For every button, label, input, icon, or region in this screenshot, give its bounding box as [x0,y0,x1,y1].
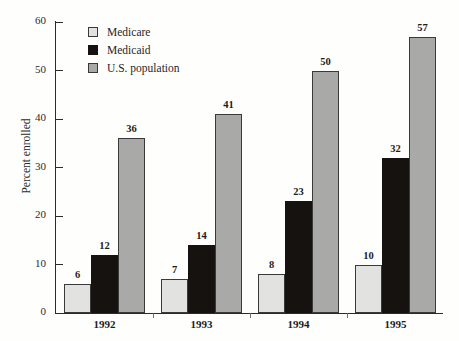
bar-chart: Percent enrolled 0102030405060 Medicare … [0,0,459,341]
legend-label-population: U.S. population [107,62,180,74]
legend-label-medicaid: Medicaid [107,44,150,56]
bar-value-label: 32 [390,143,401,154]
bar-value-label: 12 [99,240,110,251]
y-axis-title-holder: Percent enrolled [16,0,30,300]
bar [409,37,436,313]
x-axis-category-label: 1995 [343,318,448,330]
bar-value-label: 14 [196,230,207,241]
y-axis-tick-label: 60 [20,14,46,26]
bar-value-label: 8 [269,259,274,270]
y-axis-tick [56,313,63,314]
y-axis-tick-label: 20 [20,208,46,220]
bar [118,138,145,313]
y-axis-tick [56,264,63,265]
bar [215,114,242,313]
y-axis-tick [56,216,63,217]
legend-swatch-medicare [88,27,98,37]
bar-value-label: 7 [172,264,177,275]
bar [258,274,285,313]
legend: Medicare Medicaid U.S. population [88,24,180,78]
legend-label-medicare: Medicare [107,26,150,38]
y-axis-tick-label: 40 [20,111,46,123]
x-axis-category-label: 1992 [52,318,157,330]
bar-value-label: 50 [320,56,331,67]
x-axis-category-label: 1994 [246,318,351,330]
legend-item-medicaid: Medicaid [88,42,180,58]
bar [382,158,409,313]
legend-item-population: U.S. population [88,60,180,76]
legend-swatch-medicaid [88,45,98,55]
bar-value-label: 57 [417,22,428,33]
bar [91,255,118,313]
legend-item-medicare: Medicare [88,24,180,40]
x-axis-category-label: 1993 [149,318,254,330]
bar-value-label: 10 [363,250,374,261]
bar [188,245,215,313]
bar-value-label: 23 [293,186,304,197]
bar-value-label: 36 [126,123,137,134]
bar-value-label: 6 [75,269,80,280]
bar [285,201,312,313]
bar-value-label: 41 [223,99,234,110]
bar [161,279,188,313]
y-axis-tick-label: 50 [20,63,46,75]
legend-swatch-population [88,63,98,73]
y-axis-tick [56,167,63,168]
bar [312,71,339,314]
y-axis-tick [56,22,63,23]
y-axis-tick-label: 10 [20,257,46,269]
y-axis-tick-label: 30 [20,160,46,172]
y-axis-tick [56,70,63,71]
bar [355,265,382,314]
bar [64,284,91,313]
y-axis-tick-label: 0 [20,305,46,317]
y-axis-tick [56,119,63,120]
